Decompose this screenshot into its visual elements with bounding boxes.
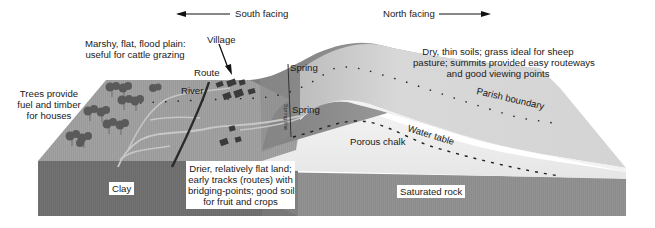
trees-line-3: for houses	[14, 110, 84, 121]
block-diagram-svg: Spring line Parish boundary Water table	[0, 0, 655, 228]
trees-line-2: fuel and timber	[14, 99, 84, 110]
route-label: Route	[194, 67, 220, 78]
north-arrow-head	[481, 11, 491, 17]
trees-annotation: Trees provide fuel and timber for houses	[14, 88, 84, 121]
drier-land-line-4: for fruit and crops	[188, 196, 293, 207]
spring-upper-label: Spring	[290, 62, 318, 73]
river-label: River	[181, 85, 203, 96]
north-facing-label: North facing	[383, 8, 435, 19]
village-arrow-head	[225, 64, 232, 75]
dry-soils-line-2: pasture; summits provided easy routeways	[413, 57, 583, 68]
porous-chalk-label: Porous chalk	[350, 136, 405, 147]
escarpment-diagram: Spring line Parish boundary Water table …	[0, 0, 655, 228]
dry-soils-line-1: Dry, thin soils; grass ideal for sheep	[413, 46, 583, 57]
spring-lower-label: Spring	[292, 104, 320, 115]
marshy-line-1: Marshy, flat, flood plain:	[85, 38, 185, 49]
drier-land-line-3: bridging-points; good soil	[188, 185, 293, 196]
saturated-rock-label: Saturated rock	[397, 185, 465, 198]
village-label: Village	[207, 34, 236, 45]
dry-soils-annotation: Dry, thin soils; grass ideal for sheep p…	[413, 46, 583, 79]
marshy-line-2: useful for cattle grazing	[85, 49, 185, 60]
dry-soils-line-3: and good viewing points	[413, 68, 583, 79]
south-arrow-head	[176, 11, 186, 17]
village-arrow-shaft	[219, 44, 228, 68]
trees-line-1: Trees provide	[14, 88, 84, 99]
marshy-annotation: Marshy, flat, flood plain: useful for ca…	[85, 38, 185, 60]
spring-line-label: Spring line	[283, 104, 289, 130]
clay-label: Clay	[109, 182, 134, 195]
drier-land-line-2: early tracks (routes) with	[188, 174, 293, 185]
drier-land-annotation: Drier, relatively flat land; early track…	[186, 161, 295, 209]
drier-land-line-1: Drier, relatively flat land;	[188, 163, 293, 174]
south-facing-label: South facing	[235, 8, 288, 19]
